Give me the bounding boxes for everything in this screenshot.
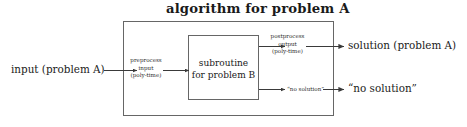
figure-title: algorithm for problem A	[166, 2, 350, 17]
input-label: input (problem A)	[11, 64, 105, 76]
inner-no-solution-label: “no solution”	[287, 86, 324, 92]
output-no-solution-label: “no solution”	[348, 83, 417, 95]
preprocess-stage-label: preprocess input (poly-time)	[128, 57, 164, 80]
preprocess-line-3: (poly-time)	[128, 72, 164, 80]
postprocess-line-1: postprocess	[268, 33, 307, 41]
figure-canvas: algorithm for problem A input (problem A…	[0, 0, 467, 127]
postprocess-stage-label: postprocess output (poly-time)	[268, 33, 307, 56]
inner-box-line-2: for problem B	[189, 70, 258, 82]
output-solution-label: solution (problem A)	[348, 40, 456, 52]
inner-box-label: subroutine for problem B	[189, 58, 258, 81]
postprocess-line-3: (poly-time)	[268, 48, 307, 56]
postprocess-line-2: output	[268, 41, 307, 49]
preprocess-line-1: preprocess	[128, 57, 164, 65]
preprocess-line-2: input	[128, 65, 164, 73]
inner-box-line-1: subroutine	[189, 58, 258, 70]
